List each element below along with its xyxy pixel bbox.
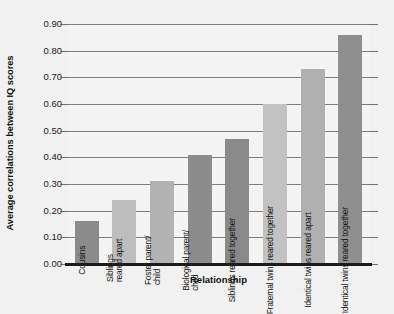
y-axis-tick-right xyxy=(369,51,378,52)
y-axis-tick-label: 0.10 xyxy=(32,232,62,242)
bars-container: CousinsSiblingsreared apartFoster parent… xyxy=(68,24,369,264)
y-axis-title: Average correlations between IQ scores xyxy=(2,20,18,265)
bar-category-label-text: Fraternal twins reared together xyxy=(266,206,275,314)
bar-category-label-line: Siblings reared together xyxy=(228,218,237,302)
y-axis-tick-label: 0.80 xyxy=(32,46,62,56)
y-axis-tick-left xyxy=(60,184,68,185)
bar-category-label-text: Identical twins reared apart xyxy=(303,213,312,308)
x-axis-title: Relationship xyxy=(68,274,369,285)
bar-category-label-text: Identical twins reared together xyxy=(341,207,350,313)
y-axis-tick-label: 0.40 xyxy=(32,152,62,162)
y-axis-tick-left xyxy=(60,157,68,158)
y-axis-tick-right xyxy=(369,157,378,158)
bar-category-label-text: Siblings reared together xyxy=(228,218,237,302)
y-axis-tick-labels: 0.900.800.700.600.500.400.300.200.100.00 xyxy=(30,24,64,264)
y-axis-tick-label: 0.20 xyxy=(32,206,62,216)
y-axis-tick-right xyxy=(369,184,378,185)
y-axis-tick-left xyxy=(60,77,68,78)
y-axis-tick-right xyxy=(369,237,378,238)
y-axis-tick-left xyxy=(60,237,68,238)
y-axis-tick-label: 0.50 xyxy=(32,126,62,136)
y-axis-tick-right xyxy=(369,131,378,132)
y-axis-tick-label: 0.70 xyxy=(32,72,62,82)
bar-category-label-line: Cousins xyxy=(78,246,87,275)
y-axis-tick-left xyxy=(60,51,68,52)
y-axis-tick-right xyxy=(369,24,378,25)
y-axis-tick-left xyxy=(60,24,68,25)
y-axis-tick-label: 0.60 xyxy=(32,99,62,109)
y-axis-tick-label: 0.30 xyxy=(32,179,62,189)
bar-category-label-text: Cousins xyxy=(78,246,87,275)
x-axis-baseline xyxy=(65,263,372,266)
y-axis-tick-left xyxy=(60,131,68,132)
y-axis-tick-right xyxy=(369,77,378,78)
plot-area: CousinsSiblingsreared apartFoster parent… xyxy=(68,24,369,264)
y-axis-tick-label: 0.90 xyxy=(32,19,62,29)
y-axis-tick-left xyxy=(60,211,68,212)
bar-category-label-line: Fraternal twins reared together xyxy=(266,206,275,314)
y-axis-tick-right xyxy=(369,211,378,212)
y-axis-tick-left xyxy=(60,104,68,105)
y-axis-title-text: Average correlations between IQ scores xyxy=(5,55,15,230)
y-axis-tick-label: 0.00 xyxy=(32,259,62,269)
bar-category-label-line: Identical twins reared together xyxy=(341,207,350,313)
bar-category-label-line: Identical twins reared apart xyxy=(303,213,312,308)
y-axis-tick-right xyxy=(369,104,378,105)
